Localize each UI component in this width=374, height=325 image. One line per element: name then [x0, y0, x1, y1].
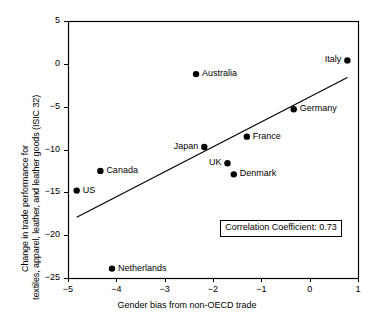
x-tick-label: −4	[103, 284, 129, 294]
point-label-netherlands: Netherlands	[118, 263, 167, 273]
x-tick-label: −5	[55, 284, 81, 294]
point-label-japan: Japan	[174, 141, 199, 151]
y-tick-label: −20	[34, 229, 60, 239]
point-label-germany: Germany	[300, 103, 337, 113]
axes-frame	[69, 22, 359, 279]
x-tick-label: −1	[248, 284, 274, 294]
point-label-uk: UK	[209, 157, 222, 167]
point-label-italy: Italy	[325, 54, 342, 64]
y-tick-label: −15	[34, 186, 60, 196]
point-label-france: France	[253, 131, 281, 141]
point-label-australia: Australia	[202, 68, 237, 78]
trend-line	[77, 78, 348, 218]
y-axis-label-line-2: textiles, apparel, leather, and leather …	[31, 95, 41, 300]
y-tick-label: 5	[34, 15, 60, 25]
x-axis-label: Gender bias from non-OECD trade	[0, 300, 374, 310]
tick-marks	[64, 22, 359, 283]
y-tick-label: −10	[34, 144, 60, 154]
point-label-denmark: Denmark	[240, 168, 277, 178]
y-tick-label: −25	[34, 272, 60, 282]
y-tick-label: −5	[34, 101, 60, 111]
correlation-annotation: Correlation Coefficient: 0.73	[220, 220, 341, 237]
point-label-canada: Canada	[106, 165, 138, 175]
x-tick-label: −2	[200, 284, 226, 294]
y-tick-label: 0	[34, 58, 60, 68]
y-axis-label-line-1: Change in trade performance for	[20, 145, 30, 272]
x-tick-label: 0	[297, 284, 323, 294]
x-tick-label: 1	[345, 284, 371, 294]
point-label-us: US	[83, 185, 96, 195]
x-tick-label: −3	[152, 284, 178, 294]
chart-figure: Change in trade performance for textiles…	[0, 0, 374, 325]
